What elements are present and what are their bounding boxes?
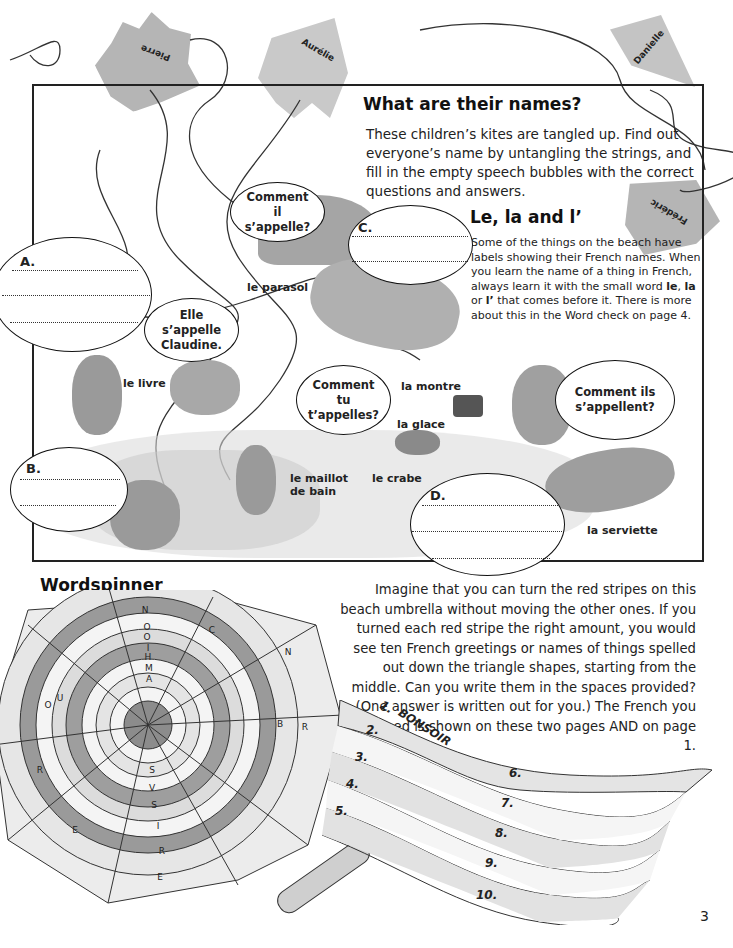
label-crabe: le crabe bbox=[372, 472, 422, 485]
spinner-letter: M bbox=[145, 663, 153, 673]
crab-illustration bbox=[395, 430, 440, 455]
answer-5-number: 5. bbox=[335, 804, 348, 818]
articles-section-text: Some of the things on the beach have lab… bbox=[471, 236, 701, 323]
spinner-letter: R bbox=[302, 722, 308, 732]
spinner-letter: U bbox=[57, 693, 64, 703]
spinner-letter: N bbox=[142, 605, 149, 615]
spinner-letter: S bbox=[149, 765, 155, 775]
wordspinner-umbrella bbox=[0, 590, 340, 930]
names-section-intro: These children’s kites are tangled up. F… bbox=[366, 125, 696, 201]
blank-bubble-a-line[interactable] bbox=[10, 322, 138, 323]
spinner-letter: A bbox=[146, 674, 152, 684]
label-maillot: le maillot de bain bbox=[290, 472, 350, 498]
blank-bubble-b-line[interactable] bbox=[20, 505, 116, 506]
boy-reading-illustration bbox=[170, 360, 240, 415]
answer-6-number: 6. bbox=[509, 766, 522, 780]
blank-bubble-d-line[interactable] bbox=[422, 505, 558, 506]
page-number: 3 bbox=[700, 908, 709, 924]
spinner-letter: N bbox=[285, 647, 292, 657]
blank-bubble-a-line[interactable] bbox=[12, 270, 138, 271]
blank-bubble-d-line[interactable] bbox=[412, 531, 562, 532]
blank-bubble-b-letter: B. bbox=[26, 461, 41, 476]
spinner-letter: V bbox=[149, 783, 155, 793]
answer-ribbon bbox=[320, 700, 720, 925]
spinner-letter: C bbox=[209, 625, 215, 635]
blank-bubble-b-line[interactable] bbox=[20, 479, 120, 480]
blank-bubble-a-line[interactable] bbox=[2, 295, 150, 296]
bubble-comment-ils: Comment ils s’appellent? bbox=[555, 360, 675, 440]
answer-10-number: 10. bbox=[476, 888, 497, 902]
spinner-letter: I bbox=[157, 821, 160, 831]
names-section-title: What are their names? bbox=[363, 94, 581, 114]
spinner-letter: R bbox=[159, 846, 165, 856]
articles-section-title: Le, la and l’ bbox=[470, 207, 582, 227]
spinner-letter: R bbox=[37, 765, 43, 775]
spinner-letter: H bbox=[145, 652, 152, 662]
spinner-letter: B bbox=[277, 719, 283, 729]
article-la: la bbox=[684, 280, 695, 293]
article-le: le bbox=[666, 280, 677, 293]
blank-bubble-c-letter: C. bbox=[358, 220, 372, 235]
spinner-letter: E bbox=[72, 825, 78, 835]
bubble-comment-tu: Comment tu t’appelles? bbox=[296, 365, 391, 435]
blank-bubble-c-line[interactable] bbox=[352, 261, 468, 262]
blank-bubble-a-letter: A. bbox=[20, 254, 35, 269]
label-serviette: la serviette bbox=[587, 524, 658, 537]
blank-bubble-d-line[interactable] bbox=[432, 558, 550, 559]
answer-2-number: 2. bbox=[366, 723, 379, 737]
article-l: l’ bbox=[486, 294, 494, 307]
label-parasol: le parasol bbox=[247, 281, 308, 294]
blank-bubble-d-letter: D. bbox=[430, 488, 446, 503]
label-glace: la glace bbox=[397, 418, 445, 431]
blank-bubble-b[interactable] bbox=[10, 447, 128, 532]
bubble-comment-il: Comment il s’appelle? bbox=[230, 182, 325, 242]
blank-bubble-c-line[interactable] bbox=[352, 236, 468, 237]
spinner-letter: S bbox=[151, 800, 157, 810]
spinner-letter: E bbox=[157, 872, 163, 882]
bubble-elle-claudine: Elle s’appelle Claudine. bbox=[144, 298, 239, 362]
watch-illustration bbox=[453, 395, 483, 417]
answer-9-number: 9. bbox=[485, 856, 498, 870]
blank-bubble-c[interactable] bbox=[348, 205, 473, 285]
label-montre: la montre bbox=[401, 380, 461, 393]
girl-in-swimsuit-illustration bbox=[236, 445, 276, 515]
label-livre: le livre bbox=[123, 377, 166, 390]
answer-8-number: 8. bbox=[495, 826, 508, 840]
spinner-letter: O bbox=[143, 622, 150, 632]
answer-4-number: 4. bbox=[346, 777, 359, 791]
boy-with-ball-illustration bbox=[72, 355, 122, 435]
spinner-letter: O bbox=[44, 700, 51, 710]
spinner-letter: O bbox=[143, 632, 150, 642]
answer-3-number: 3. bbox=[355, 750, 368, 764]
answer-7-number: 7. bbox=[501, 796, 514, 810]
